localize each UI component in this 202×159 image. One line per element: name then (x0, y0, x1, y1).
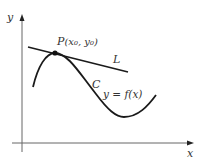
point-p-coords: (x₀, y₀) (64, 36, 98, 47)
x-axis-arrow-icon (187, 141, 194, 146)
curve-name-label: C (92, 78, 101, 91)
y-axis-arrow-icon (20, 14, 25, 21)
point-p-label: P(x₀, y₀) (56, 35, 98, 48)
point-p-dot (52, 50, 57, 55)
tangent-line-label: L (112, 53, 120, 66)
curve-equation-label: y = f(x) (102, 88, 142, 100)
x-axis-label: x (187, 147, 194, 159)
tangent-line-diagram: y x P(x₀, y₀) L C y = f(x) (0, 0, 202, 159)
y-axis-label: y (6, 11, 14, 24)
diagram-svg: y x P(x₀, y₀) L C y = f(x) (0, 0, 202, 159)
